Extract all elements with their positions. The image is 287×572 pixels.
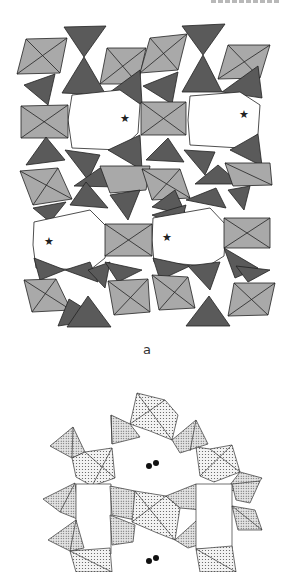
dumbbell-marker (146, 460, 159, 469)
star-marker: ★ (162, 231, 172, 244)
panel-label-a: a (143, 342, 151, 357)
panel-b (43, 393, 262, 572)
octahedra-row-3 (20, 163, 272, 205)
star-marker: ★ (239, 108, 249, 121)
star-marker: ★ (120, 112, 130, 125)
dumbbell-marker (146, 555, 159, 564)
octahedra-row-1 (17, 34, 270, 84)
crystal-structure-figure: ★ ★ ★ ★ (0, 0, 287, 572)
panel-a (17, 24, 275, 327)
star-marker: ★ (44, 235, 54, 248)
